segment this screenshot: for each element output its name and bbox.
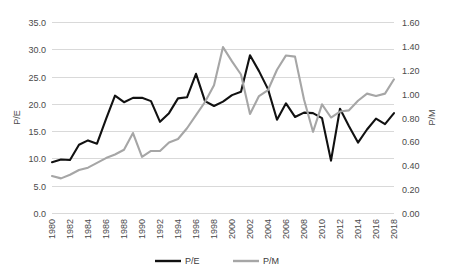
x-axis-tick-label: 2004: [263, 219, 273, 239]
x-axis-tick-label: 1980: [47, 219, 57, 239]
y-axis-left-tick-label: 35.0: [28, 18, 46, 28]
legend-label: P/E: [185, 256, 200, 266]
y-axis-left-tick-label: 15.0: [28, 127, 46, 137]
y-axis-left-tick-label: 25.0: [28, 73, 46, 83]
y-axis-right-tick-label: 1.20: [402, 66, 420, 76]
x-axis-tick-label: 1992: [155, 219, 165, 239]
x-axis-tick-label: 1984: [83, 219, 93, 239]
y-axis-right-title: P/M: [427, 109, 437, 125]
y-axis-left-tick-label: 10.0: [28, 154, 46, 164]
y-axis-right-ticks: 0.000.200.400.600.801.001.201.401.60: [402, 18, 420, 219]
x-axis-tick-label: 2012: [335, 219, 345, 239]
y-axis-left-tick-label: 20.0: [28, 100, 46, 110]
legend-label: P/M: [263, 256, 279, 266]
y-axis-right-tick-label: 1.60: [402, 18, 420, 28]
y-axis-right-tick-label: 0.40: [402, 161, 420, 171]
x-axis-tick-label: 1990: [137, 219, 147, 239]
y-axis-right-tick-label: 0.00: [402, 209, 420, 219]
chart-legend: P/EP/M: [155, 256, 279, 266]
x-axis-tick-label: 1998: [209, 219, 219, 239]
y-axis-left-ticks: 0.05.010.015.020.025.030.035.0: [28, 18, 46, 219]
y-axis-left-tick-label: 0.0: [33, 209, 46, 219]
x-axis-tick-label: 1982: [65, 219, 75, 239]
x-axis-ticks: 1980198219841986198819901992199419961998…: [47, 219, 399, 239]
chart-container: 0.05.010.015.020.025.030.035.0 0.000.200…: [0, 0, 451, 274]
x-axis-tick-label: 2002: [245, 219, 255, 239]
y-axis-right-tick-label: 0.80: [402, 114, 420, 124]
y-axis-right-tick-label: 1.40: [402, 42, 420, 52]
x-axis-tick-label: 1986: [101, 219, 111, 239]
x-axis-tick-label: 2008: [299, 219, 309, 239]
y-axis-left-title: P/E: [12, 110, 22, 125]
series-line-pe: [52, 55, 394, 162]
x-axis-tick-label: 2000: [227, 219, 237, 239]
x-axis-tick-label: 1994: [173, 219, 183, 239]
y-axis-left-tick-label: 5.0: [33, 182, 46, 192]
y-axis-right-tick-label: 0.20: [402, 185, 420, 195]
x-axis-tick-label: 2010: [317, 219, 327, 239]
x-axis-tick-label: 1988: [119, 219, 129, 239]
y-axis-left-tick-label: 30.0: [28, 45, 46, 55]
y-axis-right-tick-label: 1.00: [402, 90, 420, 100]
x-axis-tick-label: 2018: [389, 219, 399, 239]
x-axis-tick-label: 1996: [191, 219, 201, 239]
y-axis-right-tick-label: 0.60: [402, 137, 420, 147]
x-axis-tick-label: 2016: [371, 219, 381, 239]
line-chart: 0.05.010.015.020.025.030.035.0 0.000.200…: [0, 0, 451, 274]
x-axis-tick-label: 2006: [281, 219, 291, 239]
x-axis-tick-label: 2014: [353, 219, 363, 239]
